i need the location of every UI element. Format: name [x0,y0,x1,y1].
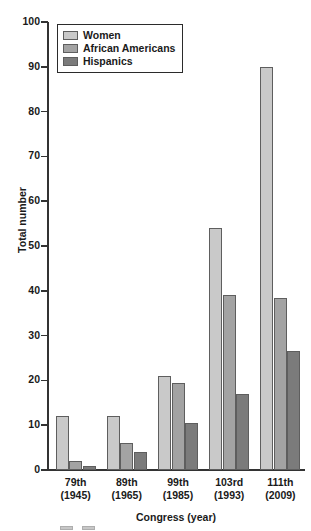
y-axis-tick [41,156,48,158]
y-axis-title: Total number [16,160,28,280]
bar-group [260,22,300,470]
bar-group [107,22,147,470]
bar [158,376,171,470]
legend-label: African Americans [83,43,175,54]
page-bottom-artifact [60,526,98,531]
legend-label: Hispanics [83,56,133,67]
y-axis-tick-label: 30 [0,330,40,341]
x-axis-title: Congress (year) [47,511,305,523]
y-axis-tick [41,424,48,426]
legend-item: Women [63,29,175,42]
bar [274,298,287,470]
bar-group [56,22,96,470]
x-axis-tick-label: 111th(2009) [249,476,311,502]
bar [172,383,185,470]
y-axis-tick [41,21,48,23]
legend-item: Hispanics [63,55,175,68]
bar [56,416,69,470]
y-axis-tick [41,245,48,247]
x-tick-congress: 79th [65,476,87,488]
bar [209,228,222,470]
y-axis-tick-label: 0 [0,464,40,475]
bar [260,67,273,470]
y-axis-tick [41,66,48,68]
x-tick-year: (2009) [249,489,311,502]
bar [69,461,82,470]
legend-label: Women [83,30,121,41]
plot-area [49,22,305,470]
bar [134,452,147,470]
x-tick-congress: 111th [267,476,293,488]
y-axis-tick [41,335,48,337]
y-axis-tick-label: 40 [0,285,40,296]
legend-item: African Americans [63,42,175,55]
legend-swatch-icon [63,44,78,53]
y-axis-tick-label: 10 [0,419,40,430]
bar [287,351,300,470]
bar [185,423,198,470]
bar-group [158,22,198,470]
chart-legend: WomenAfrican AmericansHispanics [57,24,183,73]
bar [107,416,120,470]
x-tick-congress: 99th [167,476,189,488]
bar-chart: 0102030405060708090100 Total number 79th… [0,0,311,531]
bar [236,394,249,470]
y-axis-tick-label: 90 [0,61,40,72]
legend-swatch-icon [63,31,78,40]
y-axis-tick-label: 20 [0,374,40,385]
bar [83,466,96,470]
x-tick-congress: 89th [116,476,138,488]
y-axis-tick [41,380,48,382]
bar-group [209,22,249,470]
legend-swatch-icon [63,57,78,66]
bar [120,443,133,470]
y-axis-tick [41,200,48,202]
x-tick-congress: 103rd [215,476,243,488]
bar [223,295,236,470]
y-axis-tick-label: 100 [0,16,40,27]
y-axis-tick [41,469,48,471]
y-axis-tick [41,111,48,113]
y-axis-tick-label: 80 [0,106,40,117]
y-axis-tick [41,290,48,292]
